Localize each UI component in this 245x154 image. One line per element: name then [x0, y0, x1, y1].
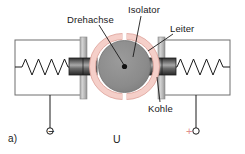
right-terminal-lead: [193, 95, 199, 134]
label-voltage-u: U: [113, 134, 121, 145]
label-leiter: Leiter: [170, 24, 194, 34]
label-drehachse: Drehachse: [67, 15, 114, 25]
label-kohle: Kohle: [148, 104, 173, 114]
label-terminal-negative: −: [48, 126, 55, 137]
label-isolator: Isolator: [128, 5, 160, 15]
label-terminal-positive: +: [186, 126, 193, 137]
insulator-gap-top: [123, 33, 127, 40]
rotation-axis-point: [122, 64, 127, 69]
right-carbon-brush: [148, 58, 176, 75]
figure-commutator-diagram: Drehachse Isolator Leiter Kohle U a) − +: [0, 0, 245, 154]
commutator-assembly: [90, 33, 160, 100]
diagram-canvas: [0, 0, 245, 154]
insulator-gap-bottom: [123, 93, 127, 100]
label-figure-reference: a): [8, 134, 17, 144]
